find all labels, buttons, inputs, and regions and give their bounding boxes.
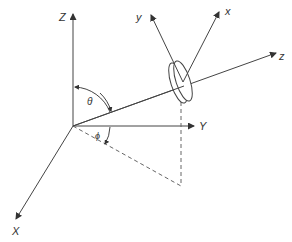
body-x-axis — [183, 12, 219, 82]
label-Y: Y — [199, 120, 207, 132]
label-X: X — [11, 225, 20, 237]
label-x: x — [224, 5, 231, 17]
phi-arc — [105, 127, 110, 144]
body-y-axis — [151, 15, 183, 82]
label-theta: θ — [87, 96, 93, 107]
coordinate-diagram: Z Y X z y x θ ϕ — [0, 0, 292, 242]
label-z: z — [278, 50, 285, 62]
label-Z: Z — [58, 11, 67, 23]
label-y: y — [135, 11, 143, 23]
label-phi: ϕ — [95, 131, 100, 141]
theta-arc — [75, 87, 110, 112]
X-axis — [16, 126, 73, 219]
disk-body — [73, 59, 196, 126]
projection-xy — [73, 126, 181, 186]
